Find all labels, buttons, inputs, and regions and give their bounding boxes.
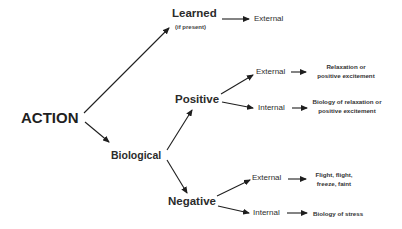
node-positive: Positive xyxy=(175,94,219,106)
node-biological: Biological xyxy=(111,150,161,161)
node-learned-note: (if present) xyxy=(175,24,206,30)
result-negative-external: Flight, flight, freeze, faint xyxy=(309,171,359,189)
result-positive-external: Relaxation or positive excitement xyxy=(310,63,382,81)
arrow-negative-to-external xyxy=(217,180,250,196)
result-line-1: Biology of relaxation or xyxy=(308,98,386,107)
node-action: ACTION xyxy=(21,110,79,125)
result-line-1: Relaxation or xyxy=(310,63,382,72)
arrow-positive-to-internal xyxy=(222,102,253,108)
node-negative: Negative xyxy=(168,196,216,208)
arrow-biological-to-positive xyxy=(167,110,192,150)
node-learned-external: External xyxy=(254,15,283,23)
result-positive-internal: Biology of relaxation or positive excite… xyxy=(308,98,386,116)
arrow-positive-to-external xyxy=(221,75,253,94)
action-flow-diagram: ACTION Learned (if present) External Bio… xyxy=(0,0,402,229)
arrow-biological-to-negative xyxy=(167,160,187,193)
node-learned: Learned xyxy=(172,8,217,20)
node-negative-internal: Internal xyxy=(253,209,280,217)
node-negative-external: External xyxy=(252,174,281,182)
arrow-action-to-biological xyxy=(85,122,109,142)
result-line-2: positive excitement xyxy=(310,72,382,81)
result-line-2: freeze, faint xyxy=(309,180,359,189)
result-negative-internal: Biology of stress xyxy=(313,210,363,219)
result-line-2: positive excitement xyxy=(308,107,386,116)
result-line-1: Flight, flight, xyxy=(309,171,359,180)
node-positive-internal: Internal xyxy=(258,104,285,112)
arrow-negative-to-internal xyxy=(218,206,249,213)
node-positive-external: External xyxy=(256,68,285,76)
arrow-action-to-learned xyxy=(84,28,169,113)
